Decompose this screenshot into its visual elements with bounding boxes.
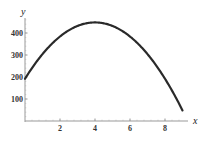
y-tick-label: 100: [11, 95, 23, 104]
x-tick-label: 2: [58, 124, 62, 133]
x-tick-label: 6: [128, 124, 132, 133]
y-tick-label: 200: [11, 73, 23, 82]
chart: 100200300400 y 2468 x: [0, 0, 208, 142]
x-tick-label: 8: [163, 124, 167, 133]
y-axis-label: y: [20, 6, 26, 17]
x-axis: 2468 x: [25, 115, 198, 133]
data-curve: [25, 22, 183, 110]
y-tick-label: 400: [11, 29, 23, 38]
x-axis-label: x: [192, 115, 198, 126]
y-tick-label: 300: [11, 51, 23, 60]
x-tick-label: 4: [93, 124, 97, 133]
y-axis: 100200300400 y: [11, 6, 28, 122]
